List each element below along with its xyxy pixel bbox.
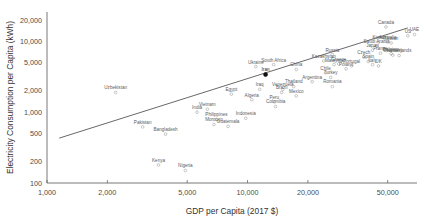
data-point-label: Canada: [378, 20, 395, 25]
data-point-marker[interactable]: [379, 52, 382, 55]
x-tick-label: 50,000: [377, 188, 399, 197]
y-axis-title: Electricity Consumption per Capita (kWh): [5, 21, 15, 174]
y-tick-label: 1,000: [24, 108, 42, 117]
data-point-label: Thailand: [285, 79, 303, 84]
y-tick-label: 100: [30, 179, 42, 188]
data-point-label: Netherlands: [387, 48, 412, 53]
y-tick-label: 20,000: [20, 16, 42, 25]
data-point-label: Iraq: [256, 82, 264, 87]
data-point-marker[interactable]: [258, 88, 261, 91]
data-point-marker[interactable]: [274, 105, 277, 108]
y-tick-label: 500: [30, 129, 42, 138]
data-point-label: Vietnam: [199, 102, 216, 107]
data-point-marker[interactable]: [141, 126, 144, 129]
data-point-label: Nigeria: [178, 163, 193, 168]
data-point-marker[interactable]: [406, 34, 409, 37]
x-tick-label: 20,000: [297, 188, 319, 197]
data-point-label: Argentina: [302, 75, 322, 80]
data-point-marker[interactable]: [385, 26, 388, 29]
data-point-marker[interactable]: [377, 65, 380, 68]
data-point-marker[interactable]: [272, 63, 275, 66]
data-point-marker[interactable]: [206, 108, 209, 111]
data-point-label: Guatemala: [217, 119, 240, 124]
data-point-marker[interactable]: [164, 133, 167, 136]
data-point-label: Uzbekistan: [104, 85, 127, 90]
data-point-marker[interactable]: [345, 67, 348, 70]
x-tick-label: 10,000: [237, 188, 259, 197]
data-point-label: Algeria: [245, 93, 260, 98]
data-point-marker[interactable]: [390, 42, 393, 45]
data-point-label: Peru: [269, 95, 279, 100]
data-point-label: Indonesia: [236, 111, 256, 116]
data-point-label: Egypt: [225, 87, 237, 92]
data-point-label: Australia: [379, 35, 397, 40]
data-point-marker[interactable]: [371, 63, 374, 66]
data-point-label: Turkey: [324, 70, 339, 75]
data-point-label: Mexico: [289, 89, 304, 94]
data-point-marker[interactable]: [213, 123, 216, 126]
data-point-label: South Africa: [261, 58, 286, 63]
data-point-marker[interactable]: [280, 91, 283, 94]
data-point-label: UAE: [410, 27, 419, 32]
x-tick-label: 1,000: [38, 188, 56, 197]
data-point-marker[interactable]: [244, 117, 247, 120]
chart-canvas: 1,0002,0005,00010,00020,00050,0001002005…: [0, 0, 425, 224]
data-point-label: Pakistan: [134, 120, 152, 125]
data-point-label: Iran: [262, 67, 270, 72]
data-point-label: Bangladesh: [153, 127, 178, 132]
data-point-label: Portugal: [343, 59, 360, 64]
data-point-marker[interactable]: [311, 80, 314, 83]
data-point-marker[interactable]: [329, 76, 332, 79]
data-point-marker[interactable]: [227, 125, 230, 128]
y-tick-label: 2,000: [24, 86, 42, 95]
data-point-label: Chile: [320, 66, 331, 71]
y-tick-label: 5,000: [24, 58, 42, 67]
data-point-label: Philippines: [205, 112, 228, 117]
data-point-marker[interactable]: [295, 95, 298, 98]
y-tick-label: 200: [30, 157, 42, 166]
data-point-label: Russia: [325, 48, 339, 53]
x-axis-title: GDP per Capita (2017 $): [186, 206, 279, 216]
data-point-label: Kenya: [152, 158, 165, 163]
data-point-marker[interactable]: [333, 63, 336, 66]
data-point-marker[interactable]: [331, 85, 334, 88]
data-point-label: US: [405, 29, 411, 34]
data-point-marker[interactable]: [398, 54, 401, 57]
data-point-marker[interactable]: [254, 65, 257, 68]
x-tick-label: 5,000: [178, 188, 196, 197]
data-point-label: UK: [375, 59, 382, 64]
data-point-marker[interactable]: [196, 111, 199, 114]
data-point-marker[interactable]: [264, 73, 268, 77]
data-point-marker[interactable]: [413, 33, 416, 36]
scatter-chart: 1,0002,0005,00010,00020,00050,0001002005…: [0, 0, 425, 224]
data-point-marker[interactable]: [114, 91, 117, 94]
data-point-label: Romania: [323, 79, 342, 84]
y-tick-label: 10,000: [20, 37, 42, 46]
data-point-marker[interactable]: [295, 68, 298, 71]
data-point-label: China: [290, 62, 302, 67]
data-point-marker[interactable]: [250, 98, 253, 101]
x-tick-label: 2,000: [98, 188, 116, 197]
data-point-marker[interactable]: [230, 93, 233, 96]
data-point-marker[interactable]: [184, 169, 187, 172]
data-point-marker[interactable]: [157, 164, 160, 167]
data-point-label: Brazil: [276, 85, 288, 90]
